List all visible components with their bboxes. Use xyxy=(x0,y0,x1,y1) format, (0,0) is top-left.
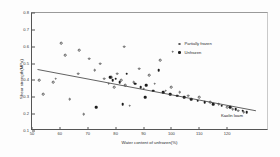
data-point-partially-frozen xyxy=(198,96,201,99)
y-tick-mark xyxy=(32,29,35,30)
x-tick-label: 60 xyxy=(58,129,63,136)
figure: Shear strength(MPa) Water content of unf… xyxy=(0,0,280,157)
data-point-partially-frozen xyxy=(172,50,175,53)
data-point-partially-frozen xyxy=(88,57,91,60)
data-point-partially-frozen xyxy=(103,77,106,80)
data-point-partially-frozen xyxy=(99,62,102,65)
data-point-unfrozen xyxy=(162,91,165,94)
data-point-unfrozen xyxy=(139,86,142,89)
data-point-partially-frozen xyxy=(82,113,85,116)
x-tick-label: 110 xyxy=(196,129,203,136)
data-point-unfrozen xyxy=(241,109,244,112)
y-tick-mark xyxy=(32,13,35,14)
data-point-partially-frozen xyxy=(54,77,57,80)
y-tick-label: 0.3 xyxy=(23,95,32,99)
data-point-partially-frozen xyxy=(123,45,126,48)
data-point-partially-frozen xyxy=(178,91,181,94)
data-point-partially-frozen xyxy=(38,79,41,82)
data-point-partially-frozen xyxy=(116,72,119,75)
data-layer xyxy=(32,13,267,129)
y-tick-label: 0.8 xyxy=(23,11,32,15)
y-tick-mark xyxy=(32,114,35,115)
legend-item-partially-frozen: Partially frozen xyxy=(178,42,212,46)
data-point-unfrozen xyxy=(229,106,232,109)
data-point-unfrozen xyxy=(121,103,124,106)
y-tick-label: 0.6 xyxy=(23,45,32,49)
data-point-partially-frozen xyxy=(138,67,141,70)
data-point-partially-frozen xyxy=(42,93,45,96)
data-point-unfrozen xyxy=(234,108,237,111)
data-point-unfrozen xyxy=(176,94,179,97)
data-point-partially-frozen xyxy=(153,83,156,86)
data-point-unfrozen xyxy=(109,76,112,79)
data-point-unfrozen xyxy=(134,83,137,86)
x-tick-label: 50 xyxy=(30,129,35,136)
y-tick-mark xyxy=(32,63,35,64)
data-point-unfrozen xyxy=(183,96,186,99)
data-point-partially-frozen xyxy=(128,104,131,107)
data-point-unfrozen xyxy=(158,69,161,72)
data-point-unfrozen xyxy=(152,89,155,92)
data-point-partially-frozen xyxy=(60,42,63,45)
legend: Partially frozen Unfrozen xyxy=(178,42,212,59)
x-tick-label: 80 xyxy=(113,129,118,136)
data-point-partially-frozen xyxy=(78,49,81,52)
legend-label: Partially frozen xyxy=(185,42,212,46)
data-point-partially-frozen xyxy=(187,94,190,97)
data-point-unfrozen xyxy=(204,101,207,104)
legend-item-unfrozen: Unfrozen xyxy=(178,51,212,55)
data-point-partially-frozen xyxy=(165,89,168,92)
data-point-unfrozen xyxy=(145,84,148,87)
data-point-unfrozen xyxy=(169,93,172,96)
data-point-partially-frozen xyxy=(159,59,162,62)
x-tick-label: 100 xyxy=(168,129,175,136)
open-circle-icon xyxy=(178,43,181,46)
data-point-partially-frozen xyxy=(77,72,80,75)
data-point-partially-frozen xyxy=(64,54,67,57)
legend-label: Unfrozen xyxy=(185,51,202,55)
sample-annotation: Kaolin loam xyxy=(221,113,243,118)
y-tick-label: 0.5 xyxy=(23,62,32,66)
data-point-unfrozen xyxy=(190,98,193,101)
x-tick-label: 90 xyxy=(141,129,146,136)
data-point-partially-frozen xyxy=(142,88,145,91)
x-tick-label: 120 xyxy=(224,129,231,136)
data-point-unfrozen xyxy=(245,111,248,114)
data-point-unfrozen xyxy=(220,104,223,107)
y-tick-label: 0.4 xyxy=(23,78,32,82)
data-point-partially-frozen xyxy=(148,74,151,77)
data-point-unfrozen xyxy=(212,103,215,106)
x-tick-label: 70 xyxy=(85,129,90,136)
y-tick-label: 0.7 xyxy=(23,28,32,32)
y-tick-label: 0.2 xyxy=(23,112,32,116)
data-point-partially-frozen xyxy=(170,86,173,89)
data-point-partially-frozen xyxy=(124,84,127,87)
x-axis-title: Water content of unfrozen(%) xyxy=(31,140,268,145)
data-point-partially-frozen xyxy=(93,69,96,72)
data-point-unfrozen xyxy=(95,106,98,109)
data-point-partially-frozen xyxy=(113,86,116,89)
y-tick-mark xyxy=(32,80,35,81)
y-tick-mark xyxy=(32,97,35,98)
data-point-partially-frozen xyxy=(107,83,110,86)
data-point-partially-frozen xyxy=(68,98,71,101)
data-point-unfrozen xyxy=(126,72,129,75)
data-point-unfrozen xyxy=(119,81,122,84)
y-tick-mark xyxy=(32,46,35,47)
data-point-unfrozen xyxy=(197,99,200,102)
filled-circle-icon xyxy=(178,51,181,54)
data-point-partially-frozen xyxy=(237,109,240,112)
data-point-unfrozen xyxy=(114,77,117,80)
data-point-partially-frozen xyxy=(52,81,55,84)
data-point-unfrozen xyxy=(144,96,147,99)
